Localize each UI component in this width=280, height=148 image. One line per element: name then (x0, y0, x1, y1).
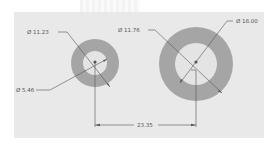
dim-label-large-inner: Ø 11.76 (118, 27, 140, 33)
arrowhead-right (191, 124, 196, 126)
dim-label-small-inner: Ø 5.46 (16, 87, 35, 93)
dim-label-large-outer: Ø 18.00 (236, 18, 258, 24)
technical-drawing: Ø 11.23 Ø 5.46 Ø 11.76 Ø 18.00 23.35 (0, 0, 280, 148)
arrowhead-left (95, 124, 100, 126)
dim-label-small-outer: Ø 11.23 (27, 29, 49, 35)
dim-label-center-distance: 23.35 (137, 122, 153, 128)
